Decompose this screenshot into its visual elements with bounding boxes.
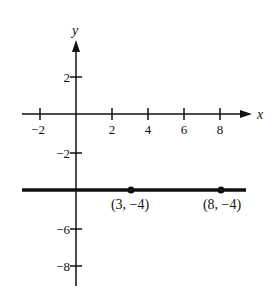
x-axis-label: x <box>256 107 264 122</box>
x-tick-label: 6 <box>181 122 188 137</box>
y-tick-labels: 2 −2 −6 −8 <box>56 70 70 274</box>
y-axis-label: y <box>70 23 79 38</box>
x-tick-label: 8 <box>217 122 224 137</box>
x-axis-arrow-icon <box>240 110 252 118</box>
y-tick-label: −6 <box>56 222 70 237</box>
y-tick-label: 2 <box>64 70 71 85</box>
x-tick-label: −2 <box>31 122 45 137</box>
y-axis-arrow-icon <box>72 40 80 52</box>
x-tick-label: 4 <box>145 122 152 137</box>
y-tick-label: −8 <box>56 259 70 274</box>
x-tick-label: 2 <box>109 122 116 137</box>
y-tick-label: −2 <box>56 146 70 161</box>
x-tick-labels: −2 2 4 6 8 <box>31 122 223 137</box>
point-3-minus-4 <box>128 187 135 194</box>
point-label: (8, −4) <box>203 197 242 213</box>
graph: x y −2 2 4 6 8 2 −2 −6 −8 (3, −4) (8, −4… <box>0 0 274 289</box>
point-label: (3, −4) <box>111 197 150 213</box>
point-8-minus-4 <box>218 187 225 194</box>
